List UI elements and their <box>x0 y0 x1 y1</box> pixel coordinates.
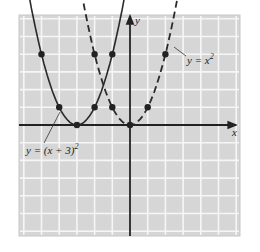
data-point <box>74 122 80 128</box>
data-point <box>56 104 62 110</box>
label-y-equals-x-squared: y = x2 <box>186 52 214 66</box>
parabola-graph: x y y = x2 y = (x + 3)2 <box>0 0 260 252</box>
data-point <box>145 104 151 110</box>
data-point <box>109 51 115 57</box>
y-axis-label: y <box>134 14 140 26</box>
data-point <box>91 104 97 110</box>
data-point <box>162 51 168 57</box>
data-point <box>127 122 133 128</box>
x-axis-label: x <box>231 126 237 138</box>
data-point <box>91 51 97 57</box>
label-y-equals-x-plus-3-squared: y = (x + 3)2 <box>25 142 78 157</box>
data-point <box>38 51 44 57</box>
data-point <box>109 104 115 110</box>
